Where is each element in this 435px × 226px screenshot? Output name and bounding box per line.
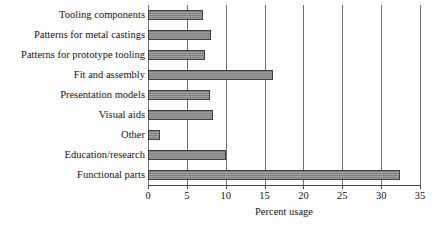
bar bbox=[148, 90, 210, 100]
bar bbox=[148, 30, 211, 40]
tick-mark-5 bbox=[187, 185, 188, 189]
category-labels-group: Tooling componentsPatterns for metal cas… bbox=[0, 5, 145, 185]
x-tick-label: 25 bbox=[327, 190, 357, 202]
category-label: Tooling components bbox=[1, 5, 145, 25]
x-tick-label: 30 bbox=[366, 190, 396, 202]
bar bbox=[148, 130, 160, 140]
x-tick-label: 0 bbox=[133, 190, 163, 202]
x-tick-label: 5 bbox=[172, 190, 202, 202]
bar-row bbox=[148, 45, 420, 65]
bar-row bbox=[148, 105, 420, 125]
gridline-35 bbox=[420, 5, 421, 185]
plot-area bbox=[148, 5, 420, 185]
x-axis-title: Percent usage bbox=[148, 205, 420, 218]
bar-chart-screenshot: Tooling componentsPatterns for metal cas… bbox=[0, 0, 435, 226]
tick-mark-30 bbox=[381, 185, 382, 189]
category-label: Presentation models bbox=[1, 85, 145, 105]
bar-row bbox=[148, 145, 420, 165]
bar bbox=[148, 50, 205, 60]
tick-mark-35 bbox=[420, 185, 421, 189]
tick-mark-0 bbox=[148, 185, 149, 189]
category-label: Patterns for prototype tooling bbox=[1, 45, 145, 65]
bar bbox=[148, 10, 203, 20]
category-label: Other bbox=[1, 125, 145, 145]
x-axis-line bbox=[148, 185, 420, 186]
bar bbox=[148, 110, 213, 120]
category-label: Fit and assembly bbox=[1, 65, 145, 85]
category-label: Patterns for metal castings bbox=[1, 25, 145, 45]
bar-row bbox=[148, 25, 420, 45]
tick-mark-15 bbox=[265, 185, 266, 189]
bar-row bbox=[148, 65, 420, 85]
category-label: Education/research bbox=[1, 145, 145, 165]
bar bbox=[148, 70, 273, 80]
x-tick-label: 35 bbox=[405, 190, 435, 202]
bar-row bbox=[148, 125, 420, 145]
x-tick-label: 10 bbox=[211, 190, 241, 202]
category-label: Visual aids bbox=[1, 105, 145, 125]
tick-mark-25 bbox=[342, 185, 343, 189]
bar-row bbox=[148, 85, 420, 105]
tick-mark-20 bbox=[303, 185, 304, 189]
category-label: Functional parts bbox=[1, 165, 145, 185]
bar bbox=[148, 150, 226, 160]
bar bbox=[148, 170, 400, 180]
x-tick-label: 15 bbox=[250, 190, 280, 202]
bar-row bbox=[148, 5, 420, 25]
x-tick-label: 20 bbox=[288, 190, 318, 202]
tick-mark-10 bbox=[226, 185, 227, 189]
bar-row bbox=[148, 165, 420, 185]
